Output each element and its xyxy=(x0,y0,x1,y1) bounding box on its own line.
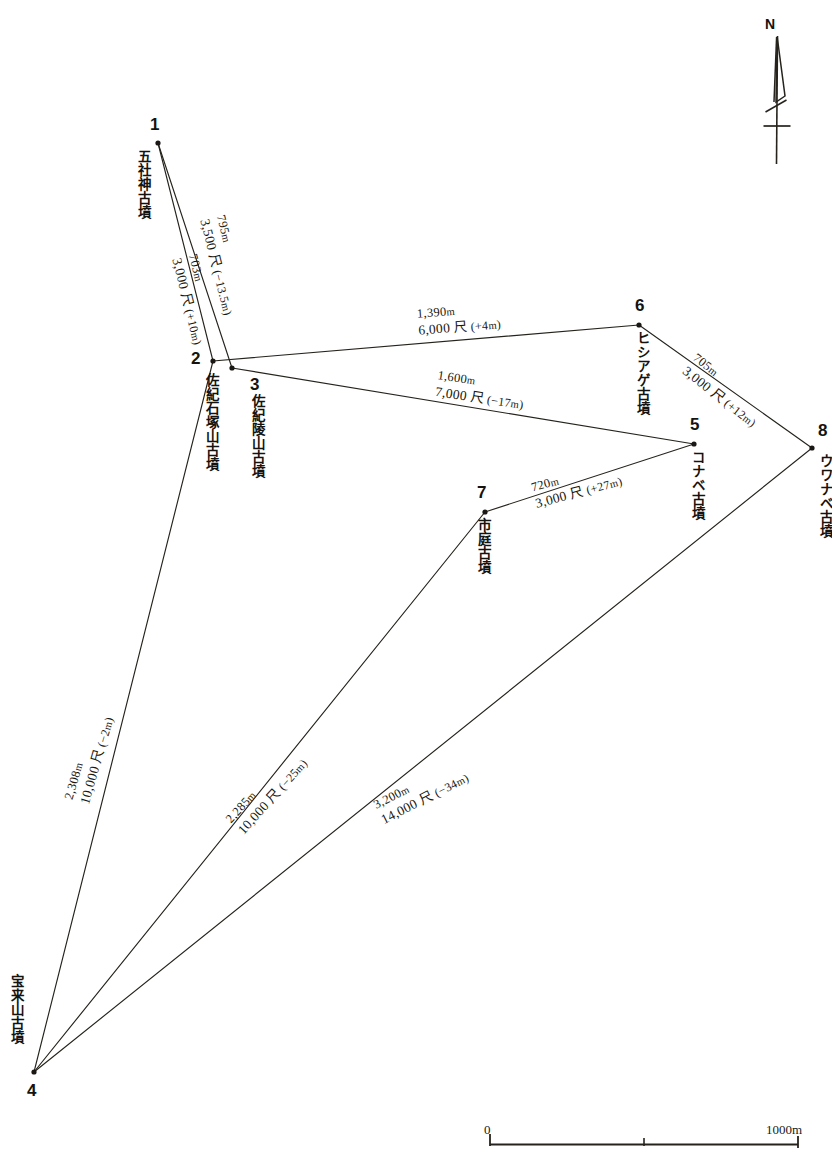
scale-min-label: 0 xyxy=(484,1122,491,1138)
scale-bar-graphic xyxy=(488,1124,800,1150)
node-dot-8 xyxy=(809,445,814,450)
node-dot-6 xyxy=(636,322,641,327)
node-name-4: 宝来山古墳 xyxy=(9,974,23,1044)
node-name-3: 佐紀陵山古墳 xyxy=(250,394,264,478)
north-arrow: N xyxy=(755,16,807,171)
north-arrow-needle xyxy=(755,16,807,171)
scale-max-label: 1000m xyxy=(766,1122,802,1138)
node-number-1: 1 xyxy=(150,116,159,133)
survey-line-4-8 xyxy=(34,448,812,1072)
edge-label-2-6: 1,390m6,000 尺 (+4m) xyxy=(416,300,501,339)
node-dot-4 xyxy=(31,1069,36,1074)
survey-line-4-2 xyxy=(34,361,213,1072)
node-name-2: 佐紀石塚山古墳 xyxy=(204,373,218,471)
node-name-8: ウワナベ古墳 xyxy=(818,454,832,538)
survey-network-lines xyxy=(0,0,832,1171)
scale-bar: 0 1000m xyxy=(488,1124,800,1164)
node-number-3: 3 xyxy=(250,376,259,393)
node-number-7: 7 xyxy=(477,484,486,501)
node-dot-1 xyxy=(155,140,160,145)
node-number-2: 2 xyxy=(191,350,200,367)
node-dot-2 xyxy=(210,358,215,363)
node-dot-5 xyxy=(691,441,696,446)
node-number-8: 8 xyxy=(818,422,827,439)
node-name-1: 五社神古墳 xyxy=(136,149,150,219)
north-arrow-label: N xyxy=(765,16,775,32)
map-canvas: 1五社神古墳2佐紀石塚山古墳3佐紀陵山古墳4宝来山古墳5コナベ古墳6ヒシアゲ古墳… xyxy=(0,0,832,1171)
node-name-7: 市庭古墳 xyxy=(476,518,490,574)
node-dot-3 xyxy=(229,365,234,370)
node-number-6: 6 xyxy=(635,297,644,314)
node-name-6: ヒシアゲ古墳 xyxy=(635,331,649,415)
node-number-5: 5 xyxy=(690,416,699,433)
node-dot-7 xyxy=(482,509,487,514)
node-number-4: 4 xyxy=(27,1082,36,1099)
node-name-5: コナベ古墳 xyxy=(690,450,704,520)
